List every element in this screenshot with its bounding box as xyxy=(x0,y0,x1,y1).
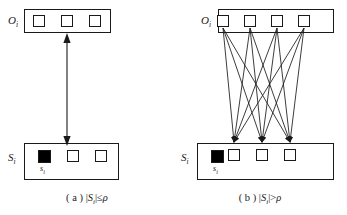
filled-node-label-a: si xyxy=(40,165,45,175)
top-set-label-b: Oi xyxy=(201,15,211,29)
top-node-b-4 xyxy=(299,16,310,27)
bipartite-edges-b xyxy=(223,28,304,142)
edge-b-4-1 xyxy=(234,28,304,142)
bottom-node-b-3 xyxy=(285,150,296,161)
edge-b-3-1 xyxy=(234,28,277,142)
panel-a-graphics xyxy=(0,0,174,215)
bidirectional-arrow-head-up xyxy=(63,33,70,43)
top-node-b-2 xyxy=(245,16,256,27)
edge-b-4-2 xyxy=(262,28,304,142)
bottom-node-a-2 xyxy=(96,151,107,162)
top-set-label-a: Oi xyxy=(8,15,18,29)
edge-b-4-3 xyxy=(290,28,304,142)
edge-b-3-3 xyxy=(277,28,290,142)
top-node-a-2 xyxy=(62,16,73,27)
bottom-node-a-filled xyxy=(39,151,51,163)
bottom-set-label-a: Si xyxy=(8,152,16,166)
top-node-b-1 xyxy=(218,16,229,27)
panel-a: Oi Si si ( a ) |Si|≤ρ xyxy=(0,0,174,215)
panel-b-graphics xyxy=(173,0,347,215)
bottom-node-b-filled xyxy=(212,151,224,163)
panel-b: Oi Si si ( b ) |Si|>ρ xyxy=(173,0,347,215)
filled-node-label-b: si xyxy=(213,165,218,175)
caption-b: ( b ) |Si|>ρ xyxy=(173,193,347,206)
edge-b-2-1 xyxy=(234,28,250,142)
figure-container: Oi Si si ( a ) |Si|≤ρ xyxy=(0,0,347,215)
bottom-node-b-2 xyxy=(257,150,268,161)
caption-a: ( a ) |Si|≤ρ xyxy=(0,193,174,206)
edge-b-3-2 xyxy=(262,28,277,142)
top-node-a-3 xyxy=(90,16,101,27)
bottom-node-b-1 xyxy=(229,150,240,161)
top-node-b-3 xyxy=(272,16,283,27)
bottom-node-a-1 xyxy=(68,151,79,162)
top-node-a-1 xyxy=(34,16,45,27)
bottom-set-label-b: Si xyxy=(181,152,189,166)
